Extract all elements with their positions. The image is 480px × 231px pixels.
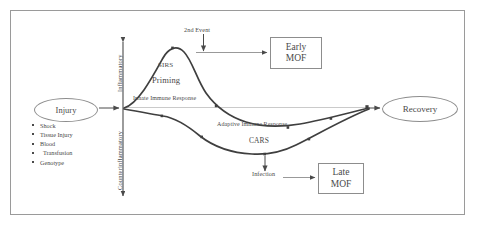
list-item: Tissue Injury — [32, 131, 110, 139]
list-item: Genotype — [32, 159, 110, 167]
list-item: Blood — [32, 140, 110, 148]
figure-container: Injury Recovery Shock Tissue Injury Bloo… — [0, 0, 480, 231]
innate-immune-response-label: Innate Immune Response — [133, 95, 196, 101]
priming-label: Priming — [152, 76, 180, 85]
risk-factors-list: Shock Tissue Injury Blood Transfusion Ge… — [32, 122, 110, 168]
cars-label: CARS — [249, 137, 269, 145]
injury-label: Injury — [56, 105, 77, 115]
y-axis-label-inflammatory: Inflammatory — [116, 54, 123, 92]
infection-label: Infection — [252, 171, 275, 178]
recovery-node: Recovery — [382, 96, 458, 122]
y-axis-label-counterinflammatory: Counterinflammatory — [116, 131, 123, 190]
late-mof-line2: MOF — [331, 179, 352, 190]
sirs-label: SIRS — [158, 62, 173, 69]
late-mof-box: Late MOF — [318, 163, 364, 194]
injury-node: Injury — [34, 98, 98, 122]
second-event-label: 2nd Event — [184, 27, 210, 34]
early-mof-box: Early MOF — [270, 37, 322, 69]
early-mof-line1: Early — [286, 42, 307, 53]
early-mof-line2: MOF — [286, 53, 307, 64]
list-item: Shock — [32, 122, 110, 130]
adaptive-immune-response-label: Adaptive Immune Response — [217, 121, 287, 127]
risk-factors-items: Shock Tissue Injury Blood Transfusion Ge… — [32, 122, 110, 166]
sirs-curve — [124, 48, 369, 126]
list-item-continuation: Transfusion — [32, 149, 110, 157]
late-mof-line1: Late — [333, 167, 350, 178]
recovery-label: Recovery — [403, 104, 437, 114]
